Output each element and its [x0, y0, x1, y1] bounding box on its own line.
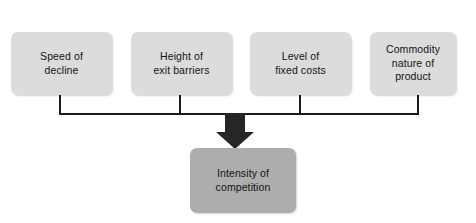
outcome-label-intensity-of-competition: Intensity of competition	[211, 167, 276, 194]
outcome-box-intensity-of-competition[interactable]: Intensity of competition	[190, 148, 296, 213]
down-arrow-icon	[216, 113, 254, 149]
connector-lines	[59, 95, 419, 115]
factor-label-commodity-nature-of-product: Commodity nature of product	[381, 43, 445, 83]
diagram-canvas: Speed of decline Height of exit barriers…	[0, 0, 476, 223]
factor-box-speed-of-decline[interactable]: Speed of decline	[11, 32, 112, 95]
factor-box-level-of-fixed-costs[interactable]: Level of fixed costs	[250, 32, 351, 95]
factor-box-height-of-exit-barriers[interactable]: Height of exit barriers	[131, 32, 232, 95]
factor-label-height-of-exit-barriers: Height of exit barriers	[148, 50, 214, 77]
factor-box-commodity-nature-of-product[interactable]: Commodity nature of product	[370, 32, 456, 95]
factor-label-level-of-fixed-costs: Level of fixed costs	[270, 50, 331, 77]
factor-label-speed-of-decline: Speed of decline	[35, 50, 88, 77]
